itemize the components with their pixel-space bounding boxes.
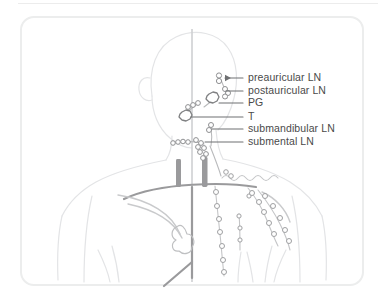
great-vessels-group bbox=[124, 157, 256, 286]
neck-right-outline bbox=[216, 130, 223, 159]
node-interpectoral-2 bbox=[238, 226, 242, 230]
node-submental-3 bbox=[181, 139, 186, 144]
node-cervical-4 bbox=[202, 146, 207, 151]
node-preauricular-2 bbox=[216, 78, 221, 83]
node-axillary-lateral-3 bbox=[278, 216, 283, 221]
clavicle-left-arc bbox=[118, 195, 180, 234]
node-axillary-lateral-4 bbox=[283, 228, 288, 233]
node-axillary-anterior-2 bbox=[257, 200, 262, 205]
parotid-gland-shape bbox=[206, 92, 219, 103]
node-axillary-anterior-1 bbox=[250, 191, 255, 196]
node-axillary-lateral-5 bbox=[287, 239, 292, 244]
torso-right-outline bbox=[292, 196, 300, 282]
node-facial-1 bbox=[196, 101, 201, 106]
node-axillary-anterior-3 bbox=[262, 210, 267, 215]
node-cervical-3 bbox=[196, 145, 201, 150]
node-preauricular-1 bbox=[216, 73, 221, 78]
label-submental-ln: submental LN bbox=[248, 136, 314, 147]
node-submental-1 bbox=[171, 141, 176, 146]
node-axillary-lateral-1 bbox=[263, 194, 268, 199]
node-axillary-lateral-2 bbox=[271, 204, 276, 209]
label-submandibular-ln: submandibular LN bbox=[248, 123, 335, 134]
pectoral-left-hint bbox=[112, 246, 119, 282]
node-parasternal-5 bbox=[220, 244, 225, 249]
node-submandibular-1 bbox=[209, 123, 214, 128]
ear-outline bbox=[139, 78, 152, 101]
node-postauricular-3 bbox=[223, 94, 228, 99]
node-axillary-anterior-4 bbox=[267, 221, 272, 226]
node-parasternal-3 bbox=[217, 217, 222, 222]
node-parasternal-7 bbox=[222, 270, 227, 275]
interpectoral-chain-path bbox=[239, 214, 240, 250]
thoracic-duct-group bbox=[172, 225, 194, 253]
node-parasternal-4 bbox=[218, 230, 223, 235]
node-supraclavicular-2 bbox=[229, 174, 234, 179]
head-outline bbox=[151, 33, 236, 130]
midline-abdomen-hint bbox=[238, 252, 241, 282]
aortic-branch-left bbox=[164, 262, 192, 286]
carotid-right-vessel bbox=[202, 157, 208, 187]
shoulder-left-outline bbox=[62, 160, 166, 216]
arm-left-outline bbox=[58, 216, 62, 280]
rib-arc-left bbox=[128, 204, 182, 238]
node-facial-2 bbox=[191, 103, 196, 108]
subclavian-arch bbox=[124, 184, 256, 199]
node-cervical-7 bbox=[201, 156, 206, 161]
carotid-left-vessel bbox=[176, 159, 181, 187]
label-pg: PG bbox=[248, 97, 263, 108]
node-cervical-5 bbox=[198, 150, 203, 155]
costal-left-hint bbox=[98, 250, 110, 282]
tonsil-gland-shape bbox=[179, 110, 192, 121]
label-preauricular-ln: preauricular LN bbox=[248, 72, 321, 83]
midline-abdomen-hint-2 bbox=[247, 252, 253, 282]
node-interpectoral-1 bbox=[237, 214, 241, 218]
label-t: T bbox=[248, 111, 255, 122]
node-submental-2 bbox=[176, 140, 181, 145]
node-submental-4 bbox=[186, 140, 191, 145]
leader-lines-group bbox=[191, 78, 243, 142]
node-parasternal-6 bbox=[221, 258, 226, 263]
node-parasternal-2 bbox=[215, 204, 220, 209]
node-facial-3 bbox=[186, 105, 191, 110]
node-parasternal-1 bbox=[214, 190, 219, 195]
arm-right-outline bbox=[322, 216, 326, 280]
node-supraclavicular-1 bbox=[224, 170, 229, 175]
torso-left-outline bbox=[84, 196, 92, 282]
anatomical-illustration bbox=[0, 0, 385, 304]
node-axillary-anterior-5 bbox=[272, 232, 277, 237]
node-interpectoral-3 bbox=[238, 238, 242, 242]
label-postauricular-ln: postauricular LN bbox=[248, 85, 326, 96]
costal-right-hint bbox=[274, 250, 286, 282]
cisterna-chyli-loop bbox=[172, 225, 194, 253]
pectoral-right-hint bbox=[265, 246, 272, 282]
node-submandibular-2 bbox=[207, 128, 212, 133]
figure-page: preauricular LN postauricular LN PG T su… bbox=[0, 0, 385, 304]
node-cervical-1 bbox=[194, 138, 199, 143]
